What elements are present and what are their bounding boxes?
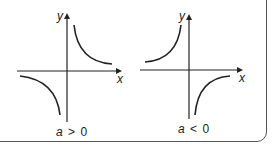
y-axis-arrow-icon [64, 13, 70, 19]
caption-a-negative: a < 0 [178, 122, 209, 136]
hyperbola-figure: y x a > 0 y x a < 0 [0, 0, 273, 146]
caption-a-positive: a > 0 [56, 125, 87, 139]
y-axis-arrow-icon [186, 14, 192, 20]
hyperbola-branch-q1 [74, 25, 112, 64]
panel-a-positive: y x a > 0 [17, 9, 124, 139]
x-axis-label: x [116, 72, 124, 86]
panel-a-negative: y x a < 0 [140, 9, 246, 136]
y-axis-label: y [178, 9, 186, 23]
hyperbola-branch-q2 [145, 25, 181, 62]
x-axis-label: x [238, 71, 246, 85]
hyperbola-branch-q4 [195, 76, 230, 115]
hyperbola-branch-q3 [20, 76, 60, 115]
y-axis-label: y [56, 9, 64, 23]
